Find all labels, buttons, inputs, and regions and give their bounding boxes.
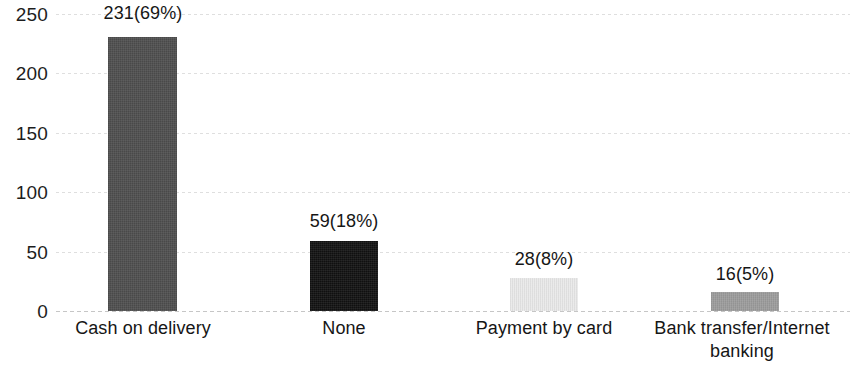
bar-value-label-cash-on-delivery: 231(69%) <box>82 3 204 23</box>
x-axis-category-cash-on-delivery: Cash on delivery <box>62 317 224 340</box>
plot-area: 250 200 150 100 50 0 231(69%) Cash on de… <box>0 0 850 369</box>
bar-value-label-payment-by-card: 28(8%) <box>484 249 604 269</box>
y-axis-tick-250: 250 <box>0 5 48 24</box>
bar-none[interactable] <box>310 241 378 311</box>
x-axis-category-line1: Bank transfer/Internet <box>654 318 829 338</box>
x-axis-category-none: None <box>284 317 404 340</box>
bar-cash-on-delivery[interactable] <box>108 37 177 311</box>
bar-value-label-bank-transfer-internet-banking: 16(5%) <box>685 264 805 284</box>
x-axis-category-line2: banking <box>710 341 774 361</box>
y-axis-tick-100: 100 <box>0 183 48 202</box>
y-axis-tick-150: 150 <box>0 124 48 143</box>
x-axis-category-bank-transfer-internet-banking: Bank transfer/Internetbanking <box>634 317 850 363</box>
bar-bank-transfer-internet-banking[interactable] <box>711 292 779 311</box>
y-axis-tick-200: 200 <box>0 64 48 83</box>
bar-value-label-none: 59(18%) <box>284 211 404 231</box>
bar-chart: 250 200 150 100 50 0 231(69%) Cash on de… <box>0 0 850 369</box>
y-axis-tick-0: 0 <box>0 302 48 321</box>
x-axis-category-payment-by-card: Payment by card <box>452 317 636 340</box>
y-axis-tick-50: 50 <box>0 243 48 262</box>
bar-payment-by-card[interactable] <box>510 278 578 311</box>
axis-baseline <box>56 311 850 312</box>
